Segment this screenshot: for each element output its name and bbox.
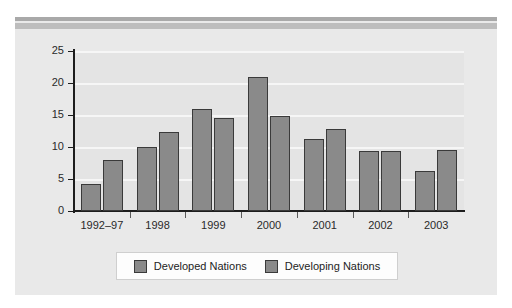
bar [415,171,435,211]
bar [248,77,268,211]
chart-legend: Developed Nations Developing Nations [116,252,398,280]
panel-top-band [15,17,497,21]
legend-label-developing: Developing Nations [285,260,380,272]
legend-swatch-developed [134,260,147,273]
bar [381,151,401,211]
bar-group [353,51,409,211]
bar [270,116,290,211]
x-tick-label: 2002 [353,219,409,231]
bar-group [241,51,297,211]
y-tick-label: 0 [24,204,64,216]
bar-group [130,51,186,211]
bar [326,129,346,211]
x-tick-label: 2001 [297,219,353,231]
bar-group [185,51,241,211]
x-tick [353,212,354,218]
x-tick-label: 1992–97 [74,219,130,231]
legend-item-developed: Developed Nations [134,260,247,273]
y-tick-label: 10 [24,140,64,152]
x-tick [408,212,409,218]
bar [214,118,234,211]
legend-item-developing: Developing Nations [265,260,380,273]
bar-group [297,51,353,211]
x-tick [241,212,242,218]
legend-label-developed: Developed Nations [154,260,247,272]
bar [159,132,179,211]
y-tick-label: 15 [24,108,64,120]
x-tick [130,212,131,218]
bar [192,109,212,211]
x-tick-label: 1999 [185,219,241,231]
bar [437,150,457,211]
y-tick-label: 20 [24,76,64,88]
bar [304,139,324,211]
x-tick-label: 2003 [408,219,464,231]
x-tick-label: 1998 [130,219,186,231]
x-tick [297,212,298,218]
x-tick [185,212,186,218]
panel-secondary-band [15,23,497,29]
y-tick-label: 5 [24,172,64,184]
bar-group [408,51,464,211]
bar [103,160,123,211]
bar [359,151,379,211]
y-tick-label: 25 [24,44,64,56]
chart-figure: 0510152025 1992–971998199920002001200220… [0,0,512,308]
legend-swatch-developing [265,260,278,273]
bar [137,147,157,211]
bar-group [74,51,130,211]
bar [81,184,101,211]
x-tick-label: 2000 [241,219,297,231]
